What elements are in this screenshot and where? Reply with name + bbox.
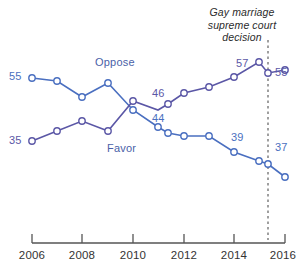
- oppose-point: [231, 149, 237, 155]
- favor-point: [206, 84, 212, 90]
- line-chart-svg: [0, 0, 302, 271]
- favor-point: [265, 70, 271, 76]
- value-label-oppose-end: 37: [275, 141, 288, 153]
- series-favor: [29, 59, 288, 144]
- oppose-point: [165, 130, 171, 136]
- oppose-point: [155, 124, 161, 130]
- favor-point: [54, 128, 60, 134]
- x-axis-label-2014: 2014: [221, 249, 247, 261]
- x-axis-label-2010: 2010: [120, 249, 146, 261]
- favor-point: [130, 98, 136, 104]
- x-axis-label-2008: 2008: [69, 249, 95, 261]
- oppose-point: [256, 158, 262, 164]
- series-label-oppose: Oppose: [95, 56, 135, 68]
- series-label-favor: Favor: [107, 142, 136, 154]
- value-label-oppose-near-end: 39: [231, 131, 244, 143]
- favor-point: [256, 59, 262, 65]
- favor-point: [105, 128, 111, 134]
- value-label-oppose-cross: 44: [152, 112, 165, 124]
- oppose-point: [29, 75, 35, 81]
- value-label-favor-cross: 46: [152, 87, 165, 99]
- oppose-point: [282, 174, 288, 180]
- oppose-point: [79, 94, 85, 100]
- oppose-point: [206, 133, 212, 139]
- oppose-point: [130, 107, 136, 113]
- chart-container: Gay marriage supreme court decision: [0, 0, 302, 271]
- oppose-point: [181, 133, 187, 139]
- x-axis-label-2012: 2012: [171, 249, 197, 261]
- favor-point: [231, 74, 237, 80]
- favor-point: [181, 90, 187, 96]
- x-axis-group: [32, 234, 285, 243]
- favor-point: [165, 101, 171, 107]
- favor-point: [79, 118, 85, 124]
- favor-point: [29, 138, 35, 144]
- value-label-favor-start: 35: [9, 134, 22, 146]
- oppose-point: [265, 161, 271, 167]
- oppose-point: [54, 78, 60, 84]
- value-label-favor-end: 55: [275, 66, 288, 78]
- x-axis-label-2006: 2006: [19, 249, 45, 261]
- x-axis-label-2016: 2016: [270, 249, 296, 261]
- value-label-oppose-start: 55: [9, 70, 22, 82]
- value-label-favor-peak: 57: [236, 57, 249, 69]
- oppose-point: [105, 80, 111, 86]
